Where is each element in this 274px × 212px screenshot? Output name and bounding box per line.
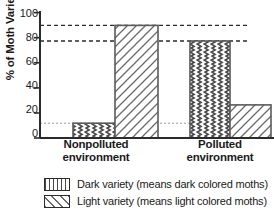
legend-label-light-variety: Light variety (means light colored moths… bbox=[77, 195, 267, 207]
x-category-polluted-line2: environment bbox=[166, 151, 274, 164]
bar-polluted-light bbox=[230, 105, 271, 138]
legend-label-dark-variety: Dark variety (means dark colored moths) bbox=[77, 178, 268, 190]
bar-nonpolluted-dark bbox=[73, 123, 115, 138]
moth-variety-bar-chart: % of Moth Variety 100 80 60 40 20 0 bbox=[0, 0, 274, 212]
x-axis-categories: Nonpolluted environment Polluted environ… bbox=[0, 138, 274, 172]
x-category-nonpolluted: Nonpolluted environment bbox=[36, 138, 156, 164]
x-category-polluted: Polluted environment bbox=[166, 138, 274, 164]
legend-item-light-variety: Light variety (means light colored moths… bbox=[44, 193, 274, 209]
x-category-nonpolluted-line1: Nonpolluted bbox=[36, 138, 156, 151]
x-category-polluted-line1: Polluted bbox=[166, 138, 274, 151]
legend-swatch-dark-variety bbox=[44, 178, 70, 191]
plot-svg bbox=[0, 0, 274, 140]
chart-legend: Dark variety (means dark colored moths) … bbox=[44, 176, 274, 210]
legend-item-dark-variety: Dark variety (means dark colored moths) bbox=[44, 176, 274, 192]
legend-swatch-light-variety bbox=[44, 195, 70, 208]
x-category-nonpolluted-line2: environment bbox=[36, 151, 156, 164]
bar-nonpolluted-light bbox=[115, 25, 158, 138]
plot-area: % of Moth Variety 100 80 60 40 20 0 bbox=[0, 0, 274, 140]
bar-polluted-dark bbox=[190, 41, 230, 138]
